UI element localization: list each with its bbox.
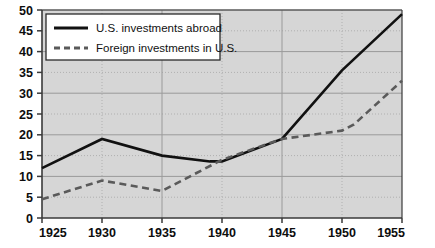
x-axis-tick-labels: 1925193019351940194519501955 — [39, 226, 405, 240]
legend-label: U.S. investments abroad — [96, 22, 222, 34]
x-tick-label: 1950 — [328, 226, 356, 240]
chart-legend: U.S. investments abroadForeign investmen… — [46, 14, 237, 60]
y-tick-label: 5 — [26, 191, 33, 205]
y-tick-label: 35 — [19, 66, 33, 80]
x-tick-label: 1935 — [148, 226, 176, 240]
y-tick-label: 40 — [19, 45, 33, 59]
y-tick-label: 10 — [19, 170, 33, 184]
y-tick-label: 0 — [26, 212, 33, 226]
x-tick-label: 1930 — [88, 226, 116, 240]
x-tick-label: 1940 — [208, 226, 236, 240]
legend-label: Foreign investments in U.S. — [96, 42, 237, 54]
investments-line-chart: 05101520253035404550 1925193019351940194… — [0, 0, 435, 248]
y-tick-label: 50 — [19, 4, 33, 18]
y-axis-tick-labels: 05101520253035404550 — [19, 4, 33, 226]
y-tick-label: 25 — [19, 108, 33, 122]
x-tick-label: 1945 — [268, 226, 296, 240]
y-tick-label: 20 — [19, 128, 33, 142]
x-tick-label: 1955 — [377, 226, 405, 240]
x-tick-label: 1925 — [39, 226, 67, 240]
y-tick-label: 15 — [19, 149, 33, 163]
chart-canvas: 05101520253035404550 1925193019351940194… — [0, 0, 435, 248]
y-tick-label: 30 — [19, 87, 33, 101]
y-tick-label: 45 — [19, 24, 33, 38]
